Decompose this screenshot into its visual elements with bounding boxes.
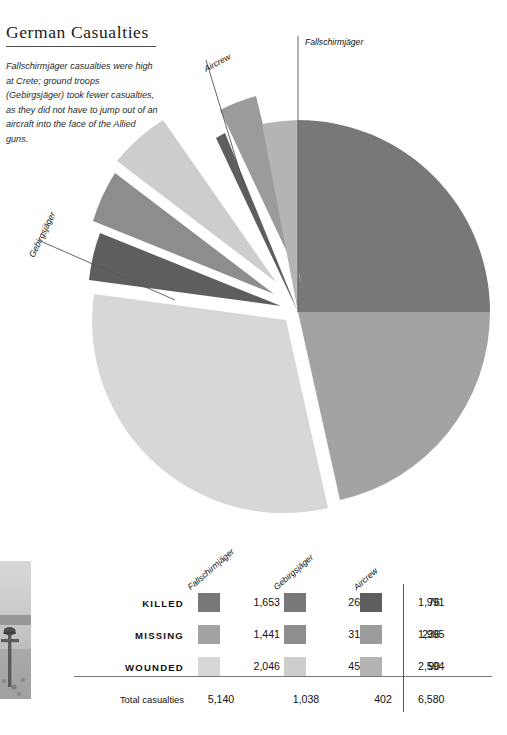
row-label-killed: KILLED [62, 598, 184, 609]
pie-slice-fallschirmjager-killed[interactable] [298, 120, 490, 312]
swatch-killed-fallschirmjager [198, 593, 220, 612]
cell-killed-gebirgsjager: 262 [308, 596, 366, 608]
swatch-wounded-gebirgsjager [284, 657, 306, 676]
callout-label-fallschirmjager: Fallschirmjäger [305, 37, 364, 47]
data-table-area: Fallschirmjäger Gebirgsjäger Aircrew KIL… [0, 548, 507, 735]
cell-wounded-gebirgsjager: 458 [308, 660, 366, 672]
grand-total: 6,580 [418, 693, 470, 705]
pie-chart: Fallschirmjäger Aircrew Gebirgsjäger [0, 0, 507, 560]
swatch-missing-aircrew [360, 625, 382, 644]
row-label-total-casualties: Total casualties [62, 694, 184, 705]
total-aircrew: 402 [354, 693, 412, 705]
pie-slice-aircrew-wounded[interactable] [262, 120, 298, 312]
cell-missing-gebirgsjager: 318 [308, 628, 366, 640]
row-total-wounded: 2,594 [418, 660, 470, 672]
row-label-wounded: WOUNDED [62, 662, 184, 673]
pie-slice-fallschirmjager-missing[interactable] [298, 312, 490, 500]
swatch-wounded-fallschirmjager [198, 657, 220, 676]
swatch-missing-fallschirmjager [198, 625, 220, 644]
callout-label-gebirgsjager: Gebirgsjäger [27, 209, 58, 259]
column-header-fallschirmjager: Fallschirmjäger [185, 546, 236, 592]
page-root: German Casualties Fallschirmjäger casual… [0, 0, 507, 735]
swatch-killed-aircrew [360, 593, 382, 612]
cell-wounded-fallschirmjager: 2,046 [222, 660, 280, 672]
column-header-aircrew: Aircrew [351, 566, 379, 592]
swatch-missing-gebirgsjager [284, 625, 306, 644]
cell-killed-fallschirmjager: 1,653 [222, 596, 280, 608]
table-horizontal-rule [74, 676, 492, 677]
pie-slice-fallschirmjager-wounded[interactable] [92, 294, 328, 513]
cell-missing-fallschirmjager: 1,441 [222, 628, 280, 640]
pie-chart-svg: Fallschirmjäger Aircrew Gebirgsjäger [0, 0, 507, 560]
row-label-missing: MISSING [62, 630, 184, 641]
column-header-gebirgsjager: Gebirgsjäger [271, 552, 315, 592]
swatch-killed-gebirgsjager [284, 593, 306, 612]
total-gebirgsjager: 1,038 [277, 693, 335, 705]
row-total-missing: 1,995 [418, 628, 470, 640]
swatch-wounded-aircrew [360, 657, 382, 676]
callout-label-aircrew: Aircrew [201, 51, 233, 74]
data-table: Fallschirmjäger Gebirgsjäger Aircrew KIL… [62, 548, 492, 735]
row-total-killed: 1,991 [418, 596, 470, 608]
total-fallschirmjager: 5,140 [192, 693, 250, 705]
